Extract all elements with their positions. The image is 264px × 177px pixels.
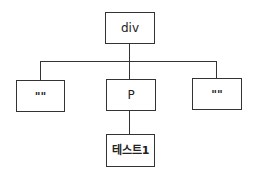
node-left-text: "" bbox=[16, 80, 65, 112]
connector-left-down bbox=[40, 61, 41, 80]
connector-p-to-text bbox=[129, 110, 130, 134]
node-div: div bbox=[105, 12, 155, 44]
node-right-text: "" bbox=[192, 78, 242, 110]
node-right-text-label: "" bbox=[211, 89, 222, 100]
node-p-text-label: 테스트1 bbox=[112, 145, 150, 156]
node-p: P bbox=[106, 79, 156, 111]
node-left-text-label: "" bbox=[35, 91, 46, 102]
connector-p-down bbox=[129, 61, 130, 79]
node-div-label: div bbox=[121, 22, 139, 34]
connector-right-down bbox=[216, 61, 217, 78]
node-p-label: P bbox=[127, 89, 134, 101]
node-p-text: 테스트1 bbox=[106, 134, 155, 167]
connector-div-down bbox=[129, 43, 130, 61]
